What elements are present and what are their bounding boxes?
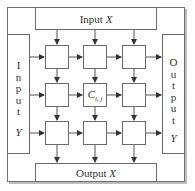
arrows-layer (0, 0, 195, 191)
